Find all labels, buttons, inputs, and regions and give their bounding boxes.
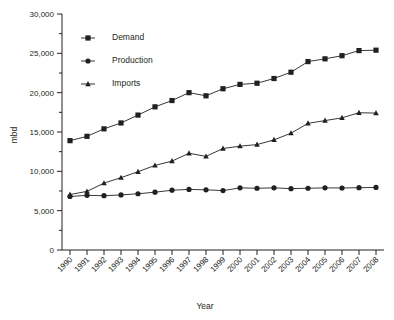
x-tick-label: 2004 (293, 255, 312, 274)
data-point (288, 186, 293, 191)
legend-label: Imports (112, 78, 140, 88)
data-point (356, 185, 361, 190)
data-point (67, 138, 72, 143)
x-tick-label: 2000 (225, 255, 244, 274)
legend-marker (85, 35, 90, 40)
data-point (135, 112, 140, 117)
data-point (118, 192, 123, 197)
x-tick-label: 1995 (140, 255, 159, 274)
x-tick-label: 2002 (259, 255, 278, 274)
data-point (271, 76, 276, 81)
data-point (101, 193, 106, 198)
data-point (305, 186, 310, 191)
x-tick-label: 2008 (361, 255, 380, 274)
data-point (237, 185, 242, 190)
data-point (186, 187, 191, 192)
x-tick-label: 1992 (89, 255, 108, 274)
y-tick-label: 25,000 (30, 49, 55, 58)
data-point (339, 53, 344, 58)
data-point (203, 93, 208, 98)
data-point (220, 188, 225, 193)
x-tick-label: 1998 (191, 255, 210, 274)
data-point (322, 56, 327, 61)
data-point (237, 82, 242, 87)
data-point (322, 185, 327, 190)
series-layer (67, 48, 379, 200)
x-axis-title: Year (196, 301, 213, 311)
y-tick-label: 30,000 (30, 10, 55, 19)
x-tick-group (70, 250, 376, 255)
x-tick-label: 2007 (344, 255, 363, 274)
data-point (169, 98, 174, 103)
data-point (152, 190, 157, 195)
x-tick-label: 1996 (157, 255, 176, 274)
data-point (373, 185, 378, 190)
legend-label: Demand (112, 32, 144, 42)
legend-item-imports[interactable]: Imports (81, 78, 140, 88)
y-tick-label-group: 05,00010,00015,00020,00025,00030,000 (30, 10, 55, 255)
chart-legend: DemandProductionImports (81, 32, 153, 88)
data-point (305, 59, 310, 64)
x-tick-label: 2006 (327, 255, 346, 274)
data-point (84, 134, 89, 139)
x-tick-label: 1990 (55, 255, 74, 274)
series-production (67, 185, 378, 199)
data-point (356, 110, 362, 115)
legend-item-demand[interactable]: Demand (81, 32, 144, 42)
data-point (356, 48, 361, 53)
x-tick-label: 2003 (276, 255, 295, 274)
data-point (101, 126, 106, 131)
data-point (152, 104, 157, 109)
y-axis-title: mbd (9, 126, 19, 143)
data-point (373, 48, 378, 53)
line-chart: 05,00010,00015,00020,00025,00030,000 mbd… (0, 0, 394, 320)
x-tick-label: 1994 (123, 255, 142, 274)
data-point (169, 188, 174, 193)
data-point (186, 90, 191, 95)
data-point (118, 120, 123, 125)
data-point (288, 130, 294, 135)
y-tick-label: 20,000 (30, 89, 55, 98)
x-tick-label: 2001 (242, 255, 261, 274)
x-tick-label: 1993 (106, 255, 125, 274)
x-axis: 1990199119921993199419951996199719981999… (55, 250, 384, 311)
data-point (254, 186, 259, 191)
data-point (220, 86, 225, 91)
data-point (254, 81, 259, 86)
legend-marker (85, 58, 90, 63)
x-tick-label: 1999 (208, 255, 227, 274)
legend-item-production[interactable]: Production (81, 55, 153, 65)
x-tick-label-group: 1990199119921993199419951996199719981999… (55, 255, 380, 274)
data-point (84, 188, 90, 193)
y-tick-label: 5,000 (34, 207, 55, 216)
x-tick-label: 1991 (72, 255, 91, 274)
legend-label: Production (112, 55, 153, 65)
x-tick-label: 2005 (310, 255, 329, 274)
data-point (186, 150, 192, 155)
data-point (203, 187, 208, 192)
y-tick-group (57, 14, 62, 250)
y-tick-label: 10,000 (30, 167, 55, 176)
data-point (271, 185, 276, 190)
series-imports (67, 110, 379, 197)
data-point (339, 185, 344, 190)
data-point (135, 191, 140, 196)
x-tick-label: 1997 (174, 255, 193, 274)
y-tick-label: 0 (50, 246, 55, 255)
y-tick-label: 15,000 (30, 128, 55, 137)
y-axis: 05,00010,00015,00020,00025,00030,000 mbd (9, 10, 62, 255)
chart-svg: 05,00010,00015,00020,00025,00030,000 mbd… (0, 0, 394, 320)
data-point (288, 70, 293, 75)
